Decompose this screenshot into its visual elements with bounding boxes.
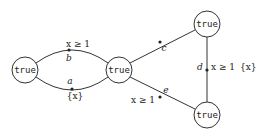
- automaton-diagram: true true true true x ≥ 1 b a {x} c d x …: [0, 0, 268, 135]
- edge-a-reset: {x}: [67, 91, 84, 101]
- node-n4-label: true: [196, 110, 218, 120]
- edge-d-action: d: [197, 62, 203, 72]
- edge-b-guard: x ≥ 1: [66, 39, 90, 49]
- node-n3-label: true: [196, 19, 218, 29]
- arrow-head-e: [158, 95, 161, 98]
- edge-e-guard: x ≥ 1: [131, 95, 155, 105]
- arrow-head-d: [205, 68, 208, 71]
- edge-b-action: b: [66, 53, 72, 63]
- edge-c-action: c: [161, 43, 166, 53]
- edge-d-guard: x ≥ 1: [211, 62, 235, 72]
- edge-a-action: a: [67, 76, 72, 86]
- edge-b: [36, 50, 108, 63]
- node-n1-label: true: [14, 65, 36, 75]
- edge-e-action: e: [163, 85, 168, 95]
- edge-d-reset: {x}: [240, 62, 257, 72]
- node-n2-label: true: [108, 65, 130, 75]
